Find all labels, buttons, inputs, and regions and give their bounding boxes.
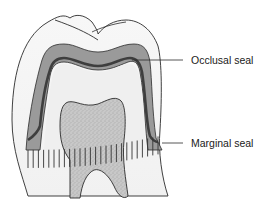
tooth-seal-diagram: Occlusal seal Marginal seal: [0, 0, 260, 206]
marginal-seal-label: Marginal seal: [191, 137, 253, 149]
occlusal-seal-label: Occlusal seal: [191, 54, 253, 66]
figure-caption-cropped: [2, 196, 258, 206]
